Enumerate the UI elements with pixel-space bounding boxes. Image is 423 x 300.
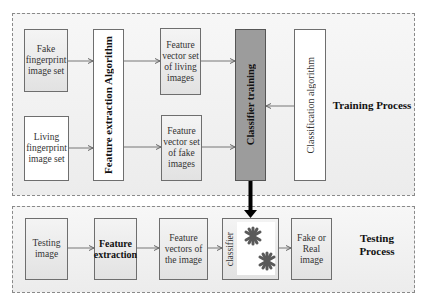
fake-fingerprint-image-set-label: Fake fingerprint image set	[25, 44, 67, 77]
feature-extraction-box: Feature extraction	[94, 218, 137, 280]
feature-extraction-label: Feature extraction	[94, 238, 137, 260]
testing-image-box: Testing image	[25, 218, 68, 280]
living-fingerprint-image-set-box: Living fingerprint image set	[24, 116, 69, 181]
classification-algorithm-label: Classification algorithm	[305, 57, 316, 153]
classifier-training-box: Classifier training	[235, 29, 266, 181]
asterisk-icon	[257, 251, 277, 271]
fake-or-real-image-label: Fake or Real image	[292, 233, 331, 266]
feature-extraction-algorithm-box: Feature extraction Algorithm	[93, 29, 124, 181]
feature-vector-fake-label: Feature vector set of fake images	[162, 126, 201, 170]
classifier-icon-area	[237, 222, 275, 275]
classifier-box: classifier	[222, 218, 279, 280]
asterisk-icon	[243, 226, 263, 246]
classifier-label: classifier	[225, 232, 236, 266]
feature-vector-fake-box: Feature vector set of fake images	[161, 115, 202, 181]
testing-image-label: Testing image	[26, 238, 67, 260]
training-process-label: Training Process	[330, 99, 414, 112]
testing-process-label: Testing Process	[352, 232, 402, 258]
feature-vectors-of-image-box: Feature vectors of the image	[159, 218, 208, 280]
feature-vector-living-box: Feature vector set of living images	[160, 28, 201, 95]
classifier-training-label: Classifier training	[245, 64, 256, 145]
living-fingerprint-image-set-label: Living fingerprint image set	[25, 132, 68, 165]
fake-fingerprint-image-set-box: Fake fingerprint image set	[24, 29, 68, 92]
feature-vectors-of-image-label: Feature vectors of the image	[160, 233, 207, 266]
classification-algorithm-box: Classification algorithm	[294, 29, 326, 181]
fake-or-real-image-box: Fake or Real image	[291, 218, 332, 280]
feature-extraction-algorithm-label: Feature extraction Algorithm	[103, 36, 114, 174]
feature-vector-living-label: Feature vector set of living images	[161, 40, 200, 84]
